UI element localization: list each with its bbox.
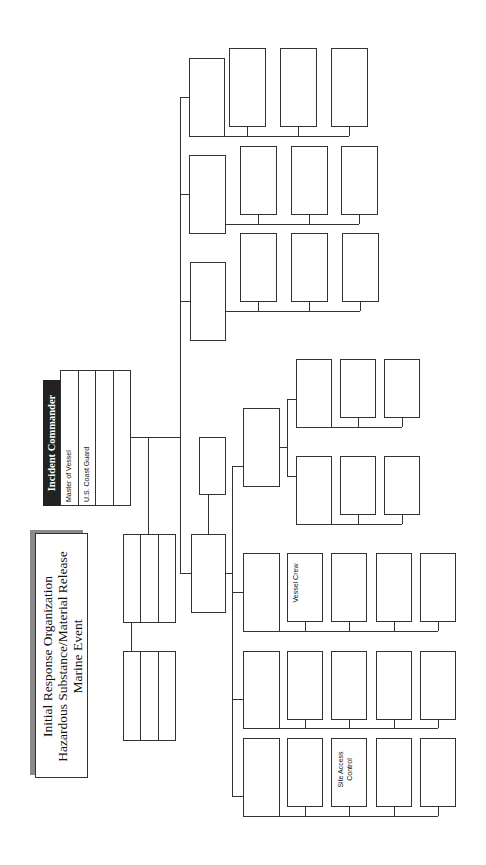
unit-box <box>291 233 328 302</box>
unit-box <box>342 233 379 302</box>
unit-box <box>376 651 412 720</box>
group-box <box>243 651 280 729</box>
unit-box <box>280 48 317 127</box>
ic-divider <box>95 370 96 506</box>
unit-box <box>240 146 277 215</box>
connector <box>180 573 191 574</box>
title-text: Initial Response Organization Hazardous … <box>40 538 85 775</box>
divider <box>140 534 141 623</box>
main-trunk <box>180 97 181 573</box>
connector <box>232 466 243 467</box>
unit-box <box>420 651 456 720</box>
unit-box <box>376 553 412 622</box>
connector <box>305 806 306 816</box>
section-box-f2 <box>189 155 226 234</box>
unit-box <box>331 48 368 127</box>
unit-box <box>287 738 323 807</box>
title-line-3: Marine Event <box>70 538 85 775</box>
staff-box-a <box>123 534 176 623</box>
connector <box>358 514 359 524</box>
connector <box>394 806 395 816</box>
connector <box>131 622 132 651</box>
connector <box>247 126 248 136</box>
unit-box <box>296 359 332 428</box>
unit-box <box>340 359 376 418</box>
unit-box <box>341 146 378 215</box>
unit-box <box>420 553 456 622</box>
section-box-d <box>199 437 226 495</box>
ic-divider <box>78 370 79 506</box>
connector <box>359 214 360 224</box>
unit-box <box>420 738 456 807</box>
ic-row-master-of-vessel: Master of Vessel <box>64 450 73 502</box>
connector <box>402 418 403 427</box>
connector <box>331 427 402 428</box>
site-access-control-label: Site Access Control <box>336 747 354 792</box>
unit-box <box>240 233 277 302</box>
connector <box>305 621 306 631</box>
divider <box>140 651 141 741</box>
connector <box>258 214 259 224</box>
connector <box>279 816 438 817</box>
vessel-crew-label: Vessel Crew <box>291 558 300 608</box>
connector <box>225 224 359 225</box>
title-line-1: Initial Response Organization <box>40 538 55 775</box>
connector <box>258 301 259 311</box>
connector <box>331 524 402 525</box>
unit-box <box>340 456 376 515</box>
unit-box <box>384 359 420 418</box>
connector <box>349 806 350 816</box>
incident-commander-header: Incident Commander <box>43 380 61 506</box>
connector <box>358 418 359 427</box>
connector <box>309 214 310 224</box>
connector <box>224 136 349 137</box>
connector <box>225 311 360 312</box>
title-box: Initial Response Organization Hazardous … <box>35 533 88 778</box>
title-line-2: Hazardous Substance/Material Release <box>55 538 70 775</box>
connector <box>180 301 190 302</box>
connector <box>232 796 243 797</box>
connector <box>208 495 209 534</box>
connector <box>180 97 189 98</box>
staff-box-b <box>123 651 176 741</box>
connector <box>438 806 439 816</box>
unit-box <box>287 651 323 720</box>
divider <box>158 651 159 741</box>
connector <box>394 621 395 631</box>
unit-box <box>331 553 367 622</box>
group-box <box>243 553 280 632</box>
connector <box>180 194 189 195</box>
connector <box>287 399 296 400</box>
connector <box>130 437 181 438</box>
section-box-f1 <box>189 58 225 137</box>
connector <box>298 126 299 136</box>
connector <box>394 719 395 728</box>
unit-box <box>331 651 367 720</box>
connector <box>232 699 243 700</box>
ic-row-us-coast-guard: U.S. Coast Guard <box>82 447 91 502</box>
ic-divider <box>113 370 114 506</box>
connector <box>225 573 232 574</box>
connector <box>232 592 243 593</box>
connector <box>287 476 296 477</box>
connector <box>360 301 361 311</box>
section-box-f3 <box>190 262 226 341</box>
unit-box <box>229 48 266 127</box>
connector <box>279 728 438 729</box>
connector <box>148 437 149 534</box>
connector <box>349 126 350 136</box>
connector <box>349 719 350 728</box>
connector <box>279 447 287 448</box>
unit-box <box>296 456 332 525</box>
connector <box>305 719 306 728</box>
connector <box>349 621 350 631</box>
group-box-e <box>243 408 280 487</box>
bracket <box>287 399 288 477</box>
connector <box>402 514 403 524</box>
connector <box>309 301 310 311</box>
unit-box <box>376 738 412 807</box>
section-box-c <box>191 534 226 613</box>
connector <box>438 719 439 728</box>
bracket <box>232 466 233 796</box>
connector <box>438 621 439 631</box>
